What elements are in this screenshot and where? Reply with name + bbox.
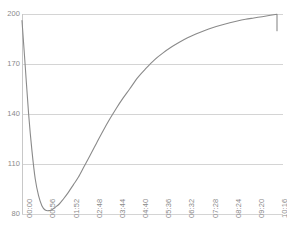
y-tick-label-80: 80 xyxy=(1,210,20,218)
y-axis-tick-labels: 20017014011080 xyxy=(0,0,20,250)
y-tick-label-140: 140 xyxy=(1,110,20,118)
y-tick-label-110: 110 xyxy=(1,160,20,168)
gridline-group xyxy=(22,14,283,214)
chart-plot-area xyxy=(0,0,287,250)
data-series-line xyxy=(22,14,277,210)
y-tick-label-170: 170 xyxy=(1,60,20,68)
line-chart: 20017014011080 00:0000:5601:5202:4803:44… xyxy=(0,0,287,250)
y-tick-label-200: 200 xyxy=(1,10,20,18)
